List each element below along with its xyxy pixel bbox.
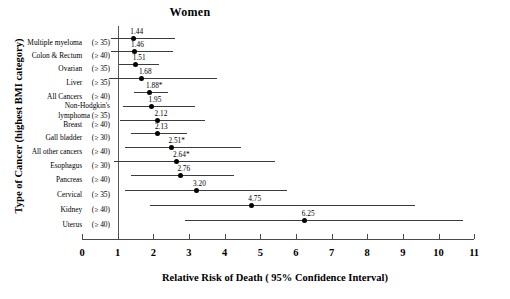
x-axis-tick: [225, 234, 226, 239]
x-axis-tick-label: 8: [357, 247, 377, 258]
data-point-value-label: 4.75: [248, 195, 261, 203]
data-point-value-label: 2.64*: [173, 151, 189, 159]
x-axis-tick: [439, 234, 440, 239]
x-axis-tick-label: 2: [143, 247, 163, 258]
data-point-marker: [133, 62, 138, 67]
confidence-interval-line: [114, 161, 274, 162]
reference-line-at-1: [118, 26, 119, 239]
x-axis-line: [82, 239, 474, 240]
data-point-marker: [178, 173, 183, 178]
confidence-interval-line: [150, 205, 416, 206]
x-axis-title: Relative Risk of Death ( 95% Confidence …: [60, 272, 490, 283]
data-point-value-label: 2.12: [155, 110, 168, 118]
x-axis-tick-label: 0: [72, 247, 92, 258]
x-axis-tick: [118, 234, 119, 239]
x-axis-tick: [82, 234, 83, 239]
x-axis-tick: [153, 234, 154, 239]
confidence-interval-line: [125, 147, 241, 148]
x-axis-tick: [296, 234, 297, 239]
data-point-value-label: 1.68: [139, 68, 152, 76]
data-point-marker: [155, 131, 160, 136]
x-axis-tick-label: 11: [464, 247, 484, 258]
data-point-value-label: 2.76: [177, 165, 190, 173]
data-point-value-label: 6.25: [302, 210, 315, 218]
data-point-value-label: 1.95: [149, 96, 162, 104]
forest-plot-chart: Women Type of Cancer (highest BMI catego…: [0, 0, 510, 299]
confidence-interval-line: [119, 64, 159, 65]
x-axis-tick: [474, 234, 475, 239]
data-point-value-label: 1.44: [130, 28, 143, 36]
data-point-value-label: 1.88*: [146, 82, 162, 90]
plot-area: 012345678910111.441.461.511.681.88*1.952…: [0, 0, 510, 299]
x-axis-tick: [332, 234, 333, 239]
x-axis-tick-label: 3: [179, 247, 199, 258]
x-axis-tick-label: 4: [215, 247, 235, 258]
data-point-marker: [249, 203, 254, 208]
x-axis-tick-label: 6: [286, 247, 306, 258]
x-axis-tick-label: 1: [108, 247, 128, 258]
confidence-interval-line: [111, 51, 173, 52]
x-axis-tick-label: 10: [429, 247, 449, 258]
x-axis-tick: [403, 234, 404, 239]
data-point-value-label: 2.13: [155, 123, 168, 131]
data-point-marker: [302, 218, 307, 223]
confidence-interval-line: [125, 190, 286, 191]
x-axis-tick: [367, 234, 368, 239]
data-point-value-label: 2.51*: [168, 137, 184, 145]
confidence-interval-line: [111, 38, 176, 39]
x-axis-tick-label: 7: [322, 247, 342, 258]
data-point-value-label: 1.51: [133, 54, 146, 62]
data-point-marker: [149, 104, 154, 109]
data-point-value-label: 3.20: [193, 180, 206, 188]
x-axis-tick-label: 5: [250, 247, 270, 258]
data-point-value-label: 1.46: [131, 41, 144, 49]
data-point-marker: [194, 188, 199, 193]
confidence-interval-line: [123, 106, 194, 107]
x-axis-tick: [189, 234, 190, 239]
confidence-interval-line: [109, 78, 217, 79]
confidence-interval-line: [120, 120, 205, 121]
confidence-interval-line: [185, 220, 464, 221]
x-axis-tick: [260, 234, 261, 239]
data-point-marker: [139, 76, 144, 81]
x-axis-tick-label: 9: [393, 247, 413, 258]
